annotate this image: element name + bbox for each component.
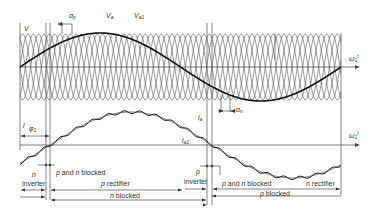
phi-arrow-right-icon [45,135,49,138]
label-n-inverter: inverter [22,180,45,187]
top-axis-arrow-icon [355,65,360,69]
label-top-axis: ω1t [349,54,359,63]
label-v: V [24,25,29,32]
bottom-axis-arrow-icon [355,143,360,147]
label-alpha-p: αp [69,12,76,20]
mode-arrows-row2 [20,196,341,200]
alpha-p-marker [58,23,72,35]
label-alpha-n: αn [236,106,243,114]
label-p-inverter-p: p [196,168,200,175]
label-bottom-axis: ω1t [349,131,359,140]
mode-arrowheads-row1 [21,188,340,192]
label-p-rectifier: p rectifier [101,180,130,187]
label-n-inverter-n: n [32,171,36,178]
label-phi: φ1 [29,125,36,133]
label-p-blocked: p blocked [260,190,290,197]
label-n-blocked: n blocked [110,192,140,199]
label-pn-blocked-1: p and n blocked [56,169,105,176]
label-ia: ia [198,114,202,122]
label-va: Va [106,12,113,20]
phi-arrow-left-icon [21,135,25,138]
cycloconverter-diagram: V αp Va Va1 αn ω1t i φ1 ia ia1 ω1t n inv… [0,0,377,212]
label-i: i [23,122,25,129]
label-ia1: ia1 [182,137,189,145]
label-p-inverter: inverter [184,178,207,185]
label-n-rectifier: n rectifier [306,180,335,187]
label-pn-blocked-2: p and n blocked [222,180,271,187]
label-va1: Va1 [134,12,144,20]
